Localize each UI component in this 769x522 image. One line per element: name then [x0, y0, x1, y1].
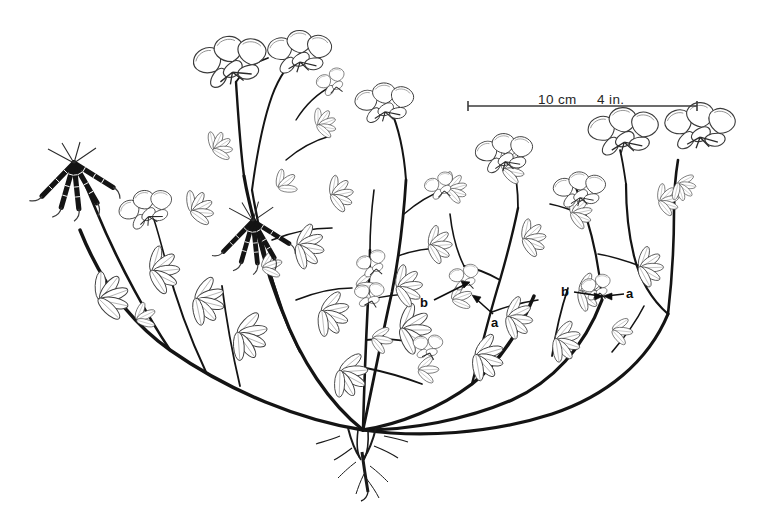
callout-label-b-right: b	[561, 285, 569, 298]
botanical-illustration-figure: 10 cm 4 in. b a b a	[0, 0, 769, 522]
plant-illustration-canvas	[0, 0, 769, 522]
scale-bar-metric-label: 10 cm	[538, 93, 577, 107]
callout-label-b-left: b	[420, 296, 428, 309]
callout-label-a-left: a	[491, 316, 498, 329]
scale-bar-imperial-label: 4 in.	[597, 93, 625, 107]
callout-label-a-right: a	[626, 287, 633, 300]
